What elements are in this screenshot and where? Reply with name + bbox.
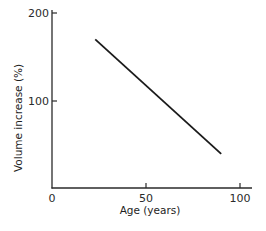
y-tick-label-100: 100 [28,95,49,108]
x-axis: 0 50 100 Age (years) [49,183,253,216]
line-chart: 200 100 Volume increase (%) 0 50 100 Age… [0,0,266,231]
y-tick-label-200: 200 [28,7,49,20]
data-series-line [95,39,221,153]
plot-area [95,39,221,153]
y-axis-label: Volume increase (%) [12,64,24,172]
x-tick-label-0: 0 [49,192,56,205]
x-axis-label: Age (years) [120,204,181,216]
x-tick-label-100: 100 [230,192,251,205]
y-axis: 200 100 Volume increase (%) [12,7,57,189]
